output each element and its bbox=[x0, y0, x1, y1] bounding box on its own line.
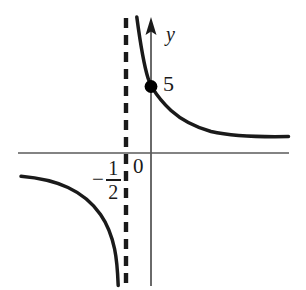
curve-right-branch bbox=[137, 17, 289, 137]
y-intercept-label: 5 bbox=[163, 73, 174, 95]
origin-label: 0 bbox=[133, 156, 144, 177]
y-axis-label: y bbox=[166, 24, 175, 44]
fraction-numerator: 1 bbox=[106, 158, 120, 179]
plot-canvas bbox=[0, 0, 306, 290]
vertical-asymptote-label: − 1 2 bbox=[92, 158, 121, 202]
minus-sign: − bbox=[92, 169, 104, 191]
graph-figure: y 5 0 − 1 2 bbox=[0, 0, 306, 290]
fraction-denominator: 2 bbox=[106, 181, 120, 202]
y-intercept-point bbox=[145, 80, 158, 93]
fraction-one-half: 1 2 bbox=[106, 158, 121, 202]
